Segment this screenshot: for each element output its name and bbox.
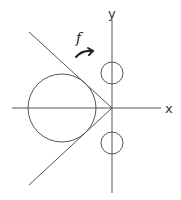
tangent-line-lower: [29, 108, 112, 185]
mapping-arrow-icon: [76, 48, 93, 57]
x-axis-label: x: [165, 101, 173, 116]
conformal-map-diagram: x y f: [0, 0, 181, 200]
function-label: f: [75, 30, 84, 46]
y-axis-label: y: [108, 6, 116, 21]
tangent-line-upper: [29, 32, 112, 108]
